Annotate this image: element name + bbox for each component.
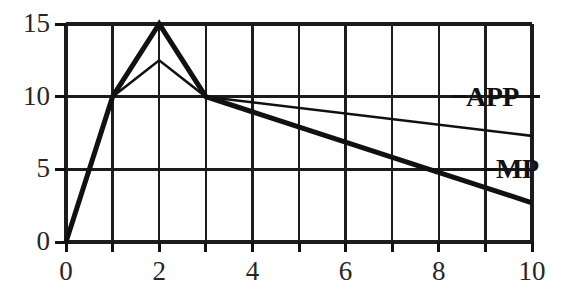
y-tick-label-5: 5 (0, 155, 54, 182)
plot-background (0, 0, 586, 298)
x-tick-label-6: 6 (316, 258, 376, 285)
series-label-app: APP (466, 83, 519, 111)
x-tick-label-0: 0 (36, 258, 96, 285)
y-tick-label-15: 15 (0, 10, 54, 37)
chart-container: 15 10 5 0 0 2 4 6 8 10 APP MP (0, 0, 586, 298)
x-tick-label-10: 10 (502, 258, 562, 285)
x-tick-label-4: 4 (222, 258, 282, 285)
x-tick-label-2: 2 (129, 258, 189, 285)
x-tick-label-8: 8 (409, 258, 469, 285)
y-tick-label-0: 0 (0, 228, 54, 255)
product-curves-plot (0, 0, 586, 298)
y-tick-label-10: 10 (0, 83, 54, 110)
series-label-mp: MP (496, 155, 539, 183)
